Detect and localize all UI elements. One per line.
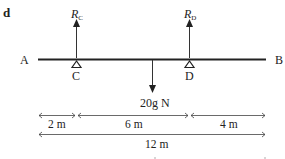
panel-label: d — [3, 6, 10, 19]
load-label: 20g N — [140, 97, 170, 109]
support-d-icon — [185, 61, 194, 68]
dimension-4m: 4 m — [220, 119, 238, 131]
support-c-icon — [72, 61, 81, 68]
load-arrowhead-icon — [149, 85, 156, 93]
end-a-label: A — [20, 54, 29, 66]
beam-diagram — [0, 0, 285, 159]
dimension-row-total — [39, 132, 265, 137]
support-c-label: C — [72, 70, 80, 82]
reaction-c-label: RC — [71, 8, 83, 22]
dimension-2m: 2 m — [48, 119, 66, 131]
reaction-d-label: RD — [184, 8, 196, 22]
dimension-12m: 12 m — [145, 139, 168, 151]
dimension-6m: 6 m — [125, 119, 143, 131]
support-d-label: D — [185, 70, 194, 82]
end-b-label: B — [275, 54, 283, 66]
